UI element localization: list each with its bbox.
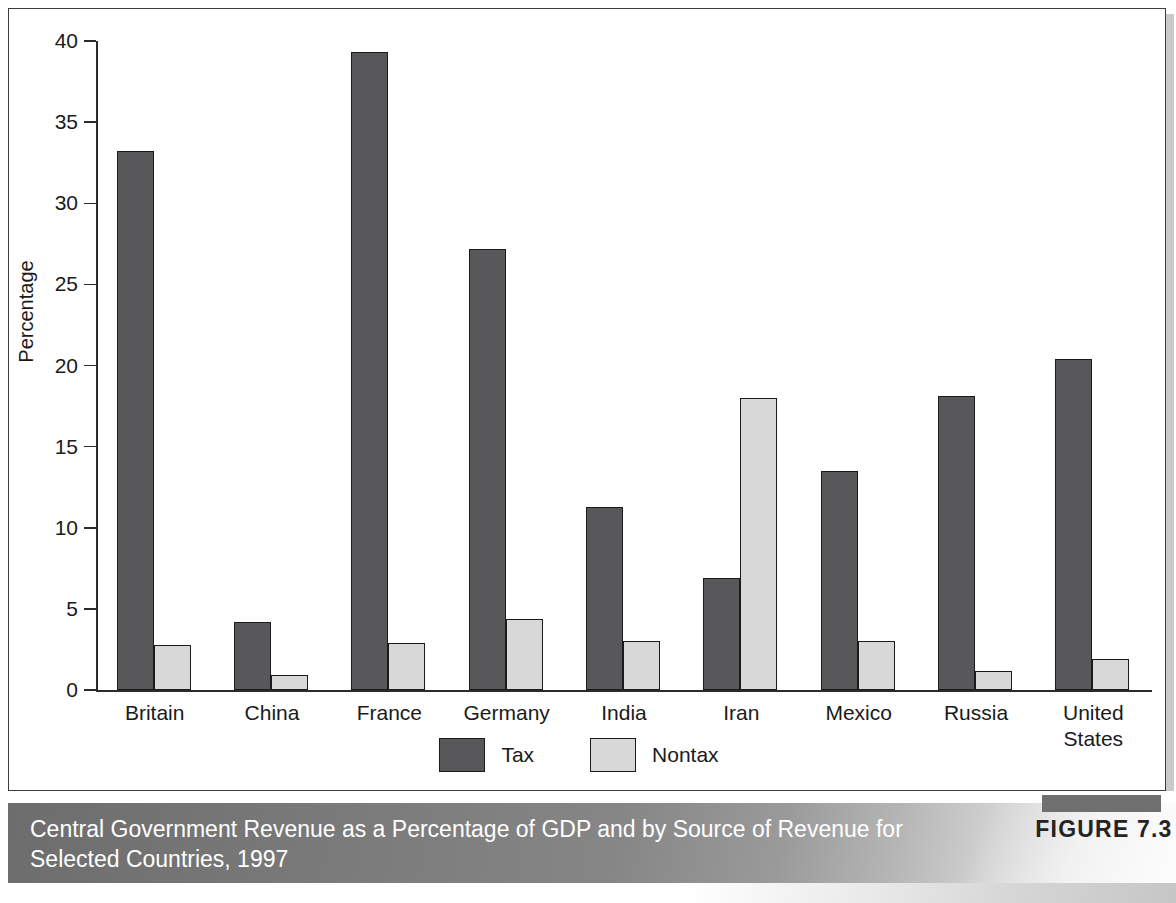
bar-tax-china	[234, 622, 271, 690]
bar-nontax-iran	[740, 398, 777, 690]
legend-item-nontax: Nontax	[590, 738, 719, 772]
bar-nontax-mexico	[858, 641, 895, 690]
figure-container: 0510152025303540 Percentage BritainChina…	[0, 0, 1176, 903]
bar-nontax-britain	[154, 645, 191, 690]
bar-group	[331, 0, 448, 691]
bar-tax-france	[351, 52, 388, 690]
y-tick-label: 35	[32, 111, 78, 132]
bar-tax-united-states	[1055, 359, 1092, 690]
bar-group	[1035, 0, 1152, 691]
y-tick-label: 15	[32, 436, 78, 457]
y-tick-0	[84, 689, 96, 691]
bar-tax-mexico	[821, 471, 858, 690]
legend-label-nontax: Nontax	[652, 743, 719, 767]
y-tick-label: 0	[32, 679, 78, 700]
bar-tax-britain	[117, 151, 154, 690]
y-tick-35	[84, 121, 96, 123]
y-tick-5	[84, 608, 96, 610]
category-label-russia: Russia	[917, 700, 1034, 726]
bar-nontax-china	[271, 675, 308, 690]
bar-group	[448, 0, 565, 691]
category-label-iran: Iran	[683, 700, 800, 726]
y-tick-label: 30	[32, 192, 78, 213]
bar-group	[213, 0, 330, 691]
bar-group	[917, 0, 1034, 691]
y-tick-label: 20	[32, 355, 78, 376]
y-axis-title: Percentage	[15, 222, 38, 402]
category-label-germany: Germany	[448, 700, 565, 726]
category-label-india: India	[565, 700, 682, 726]
y-tick-label: 40	[32, 30, 78, 51]
bar-nontax-germany	[506, 619, 543, 690]
figure-badge-label: FIGURE 7.3	[1034, 816, 1174, 843]
bar-group	[800, 0, 917, 691]
category-label-mexico: Mexico	[800, 700, 917, 726]
figure-badge-bar	[1042, 795, 1161, 812]
figure-caption: Central Government Revenue as a Percenta…	[30, 814, 930, 874]
bar-tax-iran	[703, 578, 740, 690]
legend-label-tax: Tax	[501, 743, 534, 767]
bar-group	[565, 0, 682, 691]
bar-group	[96, 0, 213, 691]
y-tick-30	[84, 203, 96, 205]
bar-tax-germany	[469, 249, 506, 690]
legend-swatch-nontax	[590, 738, 636, 772]
bars-layer	[96, 0, 1152, 691]
legend-swatch-tax	[439, 738, 485, 772]
y-tick-40	[84, 40, 96, 42]
category-label-france: France	[331, 700, 448, 726]
y-tick-label: 25	[32, 273, 78, 294]
bar-nontax-russia	[975, 671, 1012, 690]
y-tick-20	[84, 365, 96, 367]
bar-tax-india	[586, 507, 623, 690]
bar-group	[683, 0, 800, 691]
caption-bar: Central Government Revenue as a Percenta…	[8, 803, 1176, 883]
bar-nontax-united-states	[1092, 659, 1129, 690]
legend-item-tax: Tax	[439, 738, 534, 772]
category-label-britain: Britain	[96, 700, 213, 726]
bar-nontax-india	[623, 641, 660, 690]
bar-nontax-france	[388, 643, 425, 690]
y-tick-15	[84, 446, 96, 448]
category-label-china: China	[213, 700, 330, 726]
frame-shadow-right	[1166, 14, 1174, 791]
y-tick-25	[84, 284, 96, 286]
caption-bottom-fade	[8, 883, 1176, 903]
y-tick-label: 5	[32, 598, 78, 619]
y-tick-label: 10	[32, 517, 78, 538]
chart-legend: TaxNontax	[0, 738, 1158, 772]
bar-tax-russia	[938, 396, 975, 690]
y-tick-10	[84, 527, 96, 529]
